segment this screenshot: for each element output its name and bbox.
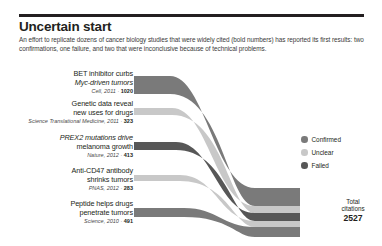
sankey-ribbon-1	[134, 76, 300, 206]
infographic-page: Uncertain start An effort to replicate d…	[0, 0, 382, 246]
node-title-line2: melanoma growth	[6, 143, 133, 152]
legend-dot-unclear	[301, 149, 308, 156]
total-citations: Total citations 2527	[330, 198, 376, 223]
node-source-1: Cell, 2011 · 1020	[10, 88, 133, 95]
legend-item-unclear: Unclear	[301, 147, 341, 158]
legend: Confirmed Unclear Failed	[301, 134, 341, 173]
page-title: Uncertain start	[19, 19, 111, 34]
node-label-3: PREX2 mutations drive melanoma growth Na…	[6, 134, 133, 159]
page-subtitle: An effort to replicate dozens of cancer …	[19, 36, 364, 53]
node-title-line2: shrinks tumors	[6, 176, 133, 185]
node-title-line2: new uses for drugs	[6, 109, 133, 118]
node-label-2: Genetic data reveal new uses for drugs S…	[6, 100, 133, 125]
node-source-4: PNAS, 2012 · 283	[6, 185, 133, 192]
legend-dot-failed	[301, 162, 308, 169]
node-source-text: Cell, 2011 ·	[92, 88, 121, 94]
legend-item-confirmed: Confirmed	[301, 134, 341, 145]
node-citations: 323	[124, 118, 133, 124]
node-citations: 491	[124, 218, 133, 224]
node-source-2: Science Translational Medicine, 2011 · 3…	[6, 118, 133, 125]
node-label-4: Anti-CD47 antibody shrinks tumors PNAS, …	[6, 167, 133, 192]
node-citations: 283	[124, 185, 133, 191]
node-source-5: Science, 2010 · 491	[6, 218, 133, 225]
node-source-text: PNAS, 2012 ·	[89, 185, 124, 191]
legend-item-failed: Failed	[301, 160, 341, 171]
node-source-text: Science, 2010 ·	[84, 218, 124, 224]
total-value: 2527	[330, 213, 376, 223]
header-rule	[19, 14, 364, 17]
total-label-line2: citations	[330, 205, 376, 212]
node-title-line2: penetrate tumors	[6, 209, 133, 218]
legend-label-unclear: Unclear	[312, 149, 334, 156]
node-citations: 1020	[121, 88, 133, 94]
node-title-line2: Myc-driven tumors	[10, 79, 133, 88]
node-label-5: Peptide helps drugs penetrate tumors Sci…	[6, 200, 133, 225]
node-label-1: BET inhibitor curbs Myc-driven tumors Ce…	[10, 70, 133, 95]
legend-label-confirmed: Confirmed	[312, 136, 341, 143]
legend-dot-confirmed	[301, 136, 308, 143]
node-source-3: Nature, 2012 · 413	[6, 152, 133, 159]
node-citations: 413	[124, 152, 133, 158]
total-label-line1: Total	[330, 198, 376, 205]
node-source-text: Science Translational Medicine, 2011 ·	[28, 118, 124, 124]
legend-label-failed: Failed	[312, 162, 329, 169]
node-source-text: Nature, 2012 ·	[87, 152, 124, 158]
